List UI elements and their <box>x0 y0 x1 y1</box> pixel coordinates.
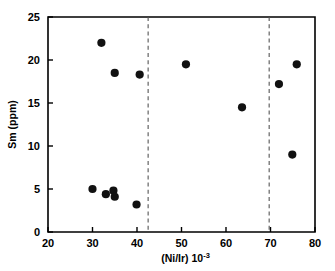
axis-frame <box>48 17 315 232</box>
data-point <box>111 193 119 201</box>
data-point <box>288 151 296 159</box>
y-axis-title: Sm (ppm) <box>6 100 18 148</box>
data-point <box>182 60 190 68</box>
x-tick-label: 20 <box>42 237 54 249</box>
data-point <box>97 39 105 47</box>
chart-canvas: 20304050607080 0510152025 Sm (ppm) (Ni/I… <box>0 0 335 271</box>
x-tick-label: 80 <box>309 237 321 249</box>
data-point <box>293 60 301 68</box>
x-axis-title-base: (Ni/Ir) 10 <box>161 252 203 264</box>
data-point <box>88 185 96 193</box>
scatter-chart-figure: 20304050607080 0510152025 Sm (ppm) (Ni/I… <box>0 0 335 271</box>
divider-lines <box>148 17 269 232</box>
x-tick-label: 40 <box>131 237 143 249</box>
data-point <box>136 71 144 79</box>
y-tick-label: 5 <box>34 183 40 195</box>
y-tick-label: 25 <box>28 11 40 23</box>
y-tick-label: 10 <box>28 140 40 152</box>
x-axis-title: (Ni/Ir) 10-3 <box>161 251 210 264</box>
x-tick-label: 70 <box>264 237 276 249</box>
x-tick-label: 30 <box>86 237 98 249</box>
x-tick-labels: 20304050607080 <box>42 237 321 249</box>
tick-marks <box>48 17 315 232</box>
data-point <box>111 69 119 77</box>
x-tick-label: 60 <box>220 237 232 249</box>
plot-frame <box>48 17 315 232</box>
y-tick-label: 15 <box>28 97 40 109</box>
data-point <box>275 80 283 88</box>
y-tick-label: 0 <box>34 226 40 238</box>
data-point <box>102 190 110 198</box>
x-axis-title-exponent: -3 <box>203 251 210 260</box>
data-point <box>238 103 246 111</box>
y-tick-labels: 0510152025 <box>28 11 40 238</box>
x-tick-label: 50 <box>175 237 187 249</box>
data-point <box>132 200 140 208</box>
y-tick-label: 20 <box>28 54 40 66</box>
